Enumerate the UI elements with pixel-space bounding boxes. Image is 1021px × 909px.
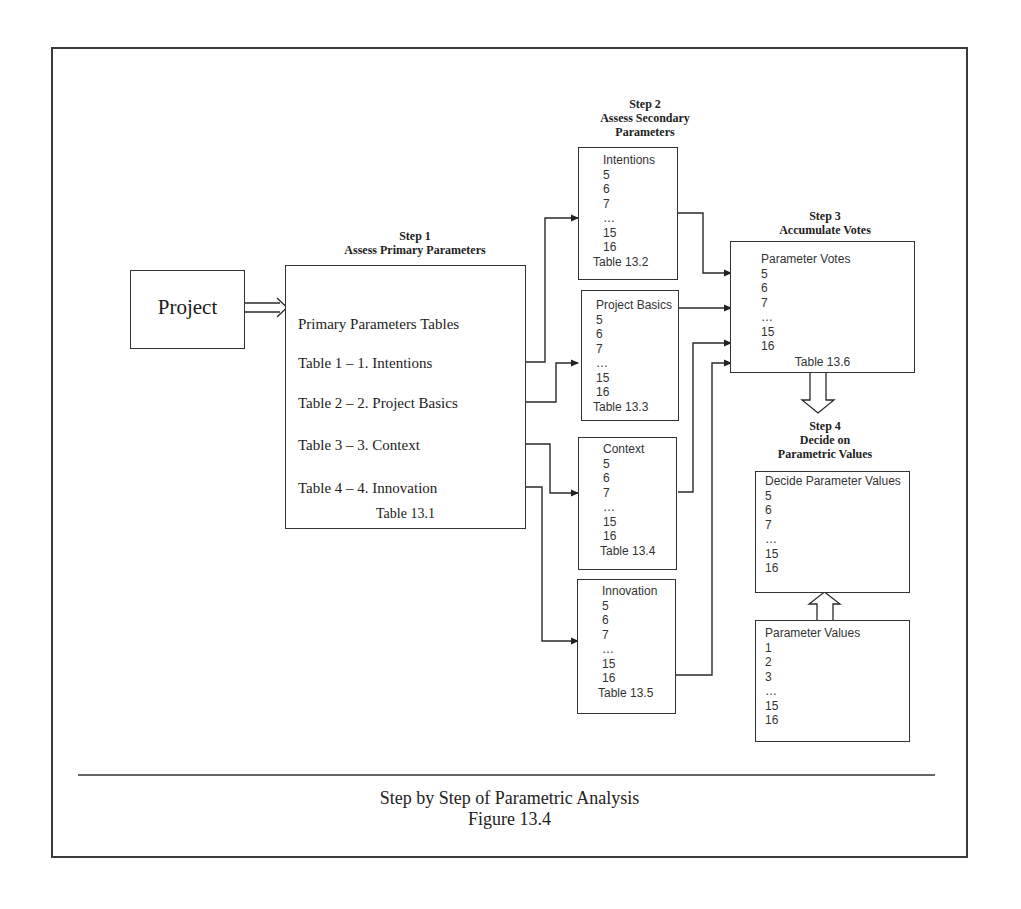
parameter-values-box: Parameter Values 1 2 3 … 15 16 — [755, 620, 910, 742]
primary-table-ref: Table 13.1 — [286, 506, 525, 522]
secondary-box-intentions: Intentions 5 6 7 … 15 16 Table 13.2 — [578, 147, 678, 280]
step3-heading: Step 3 Accumulate Votes — [750, 209, 900, 237]
step1-primary-parameters-box: Primary Parameters Tables Table 1 – 1. I… — [285, 265, 526, 529]
project-label: Project — [131, 295, 244, 320]
step2-heading: Step 2 Assess Secondary Parameters — [570, 97, 720, 139]
figure-caption-title: Step by Step of Parametric Analysis — [51, 787, 968, 809]
project-box: Project — [130, 270, 245, 349]
step4-decide-values-box: Decide Parameter Values 5 6 7 … 15 16 — [755, 471, 910, 593]
primary-tables-title: Primary Parameters Tables — [298, 316, 459, 333]
primary-row-intentions: Table 1 – 1. Intentions — [298, 355, 432, 372]
secondary-box-innovation: Innovation 5 6 7 … 15 16 Table 13.5 — [577, 579, 676, 714]
step4-heading: Step 4 Decide on Parametric Values — [760, 419, 890, 461]
secondary-box-context: Context 5 6 7 … 15 16 Table 13.4 — [578, 437, 677, 570]
secondary-box-project-basics: Project Basics 5 6 7 … 15 16 Table 13.3 — [581, 290, 679, 421]
step3-parameter-votes-box: Parameter Votes 5 6 7 … 15 16 Table 13.6 — [730, 241, 915, 373]
step1-heading: Step 1 Assess Primary Parameters — [300, 229, 530, 257]
primary-row-context: Table 3 – 3. Context — [298, 437, 420, 454]
primary-row-project-basics: Table 2 – 2. Project Basics — [298, 395, 458, 412]
votes-table-ref: Table 13.6 — [731, 355, 914, 370]
figure-caption-number: Figure 13.4 — [51, 808, 968, 830]
primary-row-innovation: Table 4 – 4. Innovation — [298, 480, 437, 497]
